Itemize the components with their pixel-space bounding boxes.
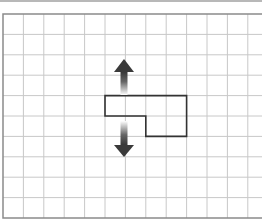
arrow-down-icon [114,121,134,157]
grid-diagram [0,0,262,223]
arrow-up-icon [114,59,134,95]
